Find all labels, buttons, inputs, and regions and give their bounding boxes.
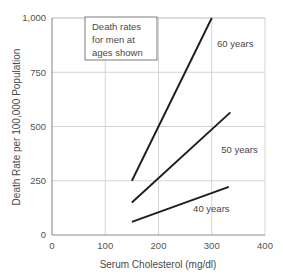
y-tick-label: 0 [41,229,46,240]
annotation-line-3: ages shown [92,47,143,58]
y-tick-labels-group: 02505007501,000 [22,12,46,240]
y-axis-title: Death Rate per 100,000 Population [11,49,22,206]
x-tick-label: 100 [97,240,113,251]
series-label-40-years: 40 years [193,203,230,214]
y-tick-label: 1,000 [22,12,46,23]
series-label-50-years: 50 years [221,144,258,155]
annotation-line-1: Death rates [92,21,141,32]
chart-container: 02505007501,000 0100200300400 60 years50… [0,0,283,278]
series-line-50-years [132,112,231,202]
x-tick-label: 0 [49,240,54,251]
series-label-60-years: 60 years [217,38,254,49]
y-tick-label: 250 [30,175,46,186]
x-tick-labels-group: 0100200300400 [49,240,273,251]
x-tick-label: 400 [257,240,273,251]
x-tick-label: 200 [151,240,167,251]
y-tick-label: 750 [30,67,46,78]
annotation-box: Death rates for men at ages shown [85,17,157,60]
y-tick-label: 500 [30,121,46,132]
annotation-line-2: for men at [92,34,135,45]
x-tick-label: 300 [204,240,220,251]
x-axis-title: Serum Cholesterol (mg/dl) [100,259,217,270]
death-rate-line-chart: 02505007501,000 0100200300400 60 years50… [0,0,283,278]
